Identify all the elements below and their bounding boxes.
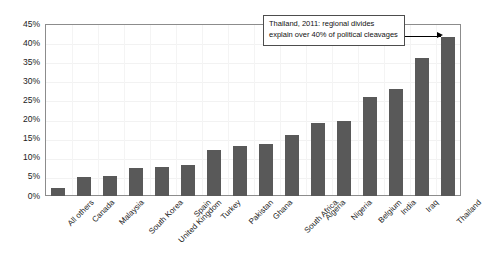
- bar: [77, 177, 91, 196]
- bar: [363, 97, 377, 196]
- x-axis-tick-labels: All othersCanadaMalaysiaSouth KoreaUnite…: [45, 198, 461, 268]
- bar: [285, 135, 299, 196]
- annotation-line-1: Thailand, 2011: regional divides: [269, 19, 400, 30]
- bar: [155, 167, 169, 196]
- annotation-leader-line: [405, 36, 441, 37]
- annotation-arrow-icon: [437, 32, 443, 38]
- bar: [259, 144, 273, 196]
- x-tick-label: Iraq: [424, 198, 440, 214]
- y-tick-label: 25%: [8, 96, 40, 105]
- y-tick-label: 5%: [8, 172, 40, 181]
- annotation-line-2: explain over 40% of political cleavages: [269, 30, 400, 41]
- y-tick-label: 10%: [8, 153, 40, 162]
- y-tick-label: 20%: [8, 115, 40, 124]
- x-tick-label: Ghana: [271, 198, 294, 221]
- bar: [103, 176, 117, 196]
- y-tick-label: 35%: [8, 58, 40, 67]
- bar: [441, 37, 455, 196]
- y-tick-label: 15%: [8, 134, 40, 143]
- bar: [129, 168, 143, 196]
- bar: [389, 89, 403, 196]
- bar: [181, 165, 195, 196]
- y-tick-label: 45%: [8, 20, 40, 29]
- y-tick-label: 40%: [8, 39, 40, 48]
- x-tick-label: Pakistan: [247, 198, 275, 226]
- bar: [51, 188, 65, 196]
- bar: [415, 58, 429, 196]
- bar: [337, 121, 351, 196]
- annotation-callout: Thailand, 2011: regional divides explain…: [263, 15, 405, 46]
- bar: [207, 150, 221, 196]
- y-tick-label: 0%: [8, 192, 40, 201]
- bars-container: [45, 24, 461, 196]
- x-tick-label: Nigeria: [349, 198, 373, 222]
- x-tick-label: All others: [66, 198, 96, 228]
- x-tick-label: Turkey: [219, 198, 242, 221]
- bar: [311, 123, 325, 196]
- bar: [233, 146, 247, 196]
- x-tick-label: India: [399, 198, 418, 217]
- x-tick-label: South Korea: [147, 198, 185, 236]
- x-tick-label: Malaysia: [117, 198, 146, 227]
- y-tick-label: 30%: [8, 77, 40, 86]
